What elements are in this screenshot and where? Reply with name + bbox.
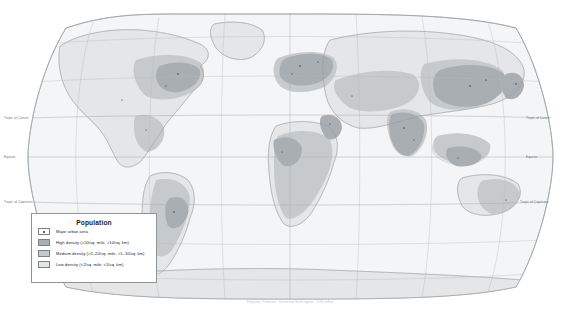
lat-label-equator-right: Equator <box>526 155 538 159</box>
world-population-map: Tropic of Cancer Tropic of Cancer Equato… <box>0 0 581 315</box>
legend-label-high-density: High density (>20/sq. mile, >10/sq. km) <box>56 240 129 245</box>
legend-label-low-density: Low density (<2/sq. mile, <1/sq. km) <box>56 262 123 267</box>
lat-label-equator-left: Equator <box>4 155 16 159</box>
legend-label-medium-density: Medium density (>2–20/sq. mile, >1–10/sq… <box>56 251 145 256</box>
lat-label-tropic-of-cancer-left: Tropic of Cancer <box>4 116 29 120</box>
legend-item-low-density: Low density (<2/sq. mile, <1/sq. km) <box>38 259 156 270</box>
legend-title: Population <box>32 219 156 226</box>
major-urban-area-swatch-icon <box>38 228 50 236</box>
projection-caption: Projection: Robinson · Denominal Scale a… <box>247 300 334 304</box>
low-density-swatch-icon <box>38 261 50 269</box>
legend-box: Population Major urban area High density… <box>31 213 157 283</box>
legend-item-medium-density: Medium density (>2–20/sq. mile, >1–10/sq… <box>38 248 156 259</box>
legend-item-major-urban-area: Major urban area <box>38 226 156 237</box>
medium-density-swatch-icon <box>38 250 50 258</box>
lat-label-tropic-of-cancer-right: Tropic of Cancer <box>526 116 551 120</box>
lat-label-tropic-of-capricorn-right: Tropic of Capricorn <box>520 200 549 204</box>
lat-label-tropic-of-capricorn-left: Tropic of Capricorn <box>4 200 33 204</box>
legend-label-major-urban-area: Major urban area <box>56 229 88 234</box>
legend-item-high-density: High density (>20/sq. mile, >10/sq. km) <box>38 237 156 248</box>
high-density-swatch-icon <box>38 239 50 247</box>
